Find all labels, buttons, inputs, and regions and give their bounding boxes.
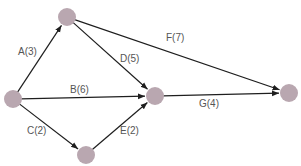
edge-label-c: C(2) xyxy=(27,126,46,136)
edge-label-e: E(2) xyxy=(120,126,139,136)
node-n2 xyxy=(77,146,95,164)
edge-label-d: D(5) xyxy=(120,54,139,64)
edge-label-g: G(4) xyxy=(199,99,219,109)
edge-f xyxy=(75,20,280,90)
node-n0 xyxy=(4,90,22,108)
node-n4 xyxy=(280,84,298,102)
diagram-svg xyxy=(0,0,301,166)
edge-b xyxy=(21,96,145,99)
edge-g xyxy=(163,93,279,96)
node-n3 xyxy=(146,87,164,105)
network-diagram: A(3)B(6)C(2)D(5)E(2)F(7)G(4) xyxy=(0,0,301,166)
edge-label-b: B(6) xyxy=(70,85,89,95)
nodes-layer xyxy=(4,8,298,164)
edge-label-f: F(7) xyxy=(166,33,184,43)
edges-layer xyxy=(17,20,279,150)
edge-label-a: A(3) xyxy=(18,47,37,57)
edge-a xyxy=(17,25,61,92)
node-n1 xyxy=(58,8,76,26)
